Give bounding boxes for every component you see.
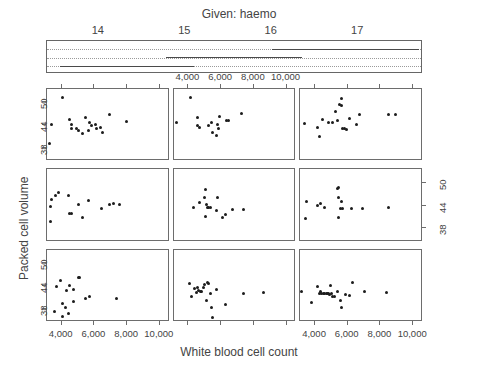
data-point — [204, 188, 207, 191]
given-tick-label: 14 — [92, 25, 104, 36]
data-point — [348, 117, 351, 120]
data-point — [175, 121, 178, 124]
data-point — [340, 104, 343, 107]
data-point — [242, 292, 245, 295]
y-tick-label: 38 — [438, 225, 448, 236]
x-tick-label: 10,000 — [271, 72, 300, 82]
data-point — [57, 191, 60, 194]
data-point — [70, 127, 73, 130]
data-point — [215, 209, 218, 212]
given-shingle-strip — [46, 40, 422, 73]
y-tick-label: 50 — [438, 179, 448, 190]
y-tick-label: 50 — [39, 259, 49, 270]
scatter-panel[interactable] — [173, 249, 296, 321]
data-point — [54, 194, 57, 197]
data-point — [50, 198, 53, 201]
data-point — [218, 115, 221, 118]
y-tick-label: 44 — [39, 282, 49, 293]
data-point — [118, 203, 121, 206]
data-point — [336, 290, 339, 293]
data-point — [50, 123, 53, 126]
data-point — [61, 302, 64, 305]
y-tick-label: 44 — [438, 202, 448, 213]
data-point — [310, 301, 313, 304]
data-point — [84, 116, 87, 119]
data-point — [331, 121, 334, 124]
x-tick-mark — [253, 321, 254, 325]
data-point — [207, 282, 210, 285]
data-point — [215, 288, 218, 291]
y-tick-label: 50 — [39, 99, 49, 110]
x-tick-mark — [61, 321, 62, 325]
scatter-panel[interactable] — [46, 249, 169, 321]
data-point — [216, 123, 219, 126]
data-point — [196, 116, 199, 119]
scatter-panel[interactable] — [46, 88, 169, 160]
data-point — [217, 127, 220, 130]
x-tick-label: 8,000 — [114, 329, 138, 339]
data-point — [70, 212, 73, 215]
data-point — [227, 119, 230, 122]
data-point — [333, 295, 336, 298]
data-point — [84, 297, 87, 300]
data-point — [81, 216, 84, 219]
x-tick-mark — [286, 321, 287, 325]
data-point — [305, 200, 308, 203]
data-point — [339, 299, 342, 302]
scatter-panel[interactable] — [299, 88, 422, 160]
data-point — [202, 286, 205, 289]
data-point — [87, 199, 90, 202]
given-interval-bar[interactable] — [224, 57, 302, 58]
data-point — [224, 213, 227, 216]
scatter-panel[interactable] — [46, 168, 169, 240]
data-point — [198, 201, 201, 204]
coplot-figure: Given: haemo 14151617 4,0006,0008,00010,… — [0, 0, 479, 365]
data-point — [363, 290, 366, 293]
data-point — [350, 207, 353, 210]
data-point — [87, 129, 90, 132]
x-tick-mark — [159, 321, 160, 325]
data-point — [215, 134, 218, 137]
y-tick-mark — [422, 205, 426, 206]
given-interval-bar[interactable] — [152, 66, 193, 67]
data-point — [321, 118, 324, 121]
data-point — [125, 120, 128, 123]
data-point — [101, 131, 104, 134]
data-point — [78, 276, 81, 279]
data-point — [340, 306, 343, 309]
scatter-panel[interactable] — [299, 168, 422, 240]
data-point — [67, 194, 70, 197]
y-tick-label: 38 — [39, 305, 49, 316]
data-point — [200, 290, 203, 293]
scatter-panel[interactable] — [173, 88, 296, 160]
scatter-panel[interactable] — [173, 168, 296, 240]
data-point — [100, 207, 103, 210]
data-point — [77, 203, 80, 206]
given-interval-bar[interactable] — [296, 49, 419, 50]
data-point — [203, 283, 206, 286]
scatter-panel[interactable] — [299, 249, 422, 321]
data-point — [190, 295, 193, 298]
x-tick-label: 10,000 — [398, 329, 427, 339]
data-point — [355, 123, 358, 126]
x-tick-label: 6,000 — [208, 72, 232, 82]
data-point — [316, 126, 319, 129]
data-point — [242, 208, 245, 211]
given-title: Given: haemo — [202, 8, 277, 20]
data-point — [81, 132, 84, 135]
data-point — [108, 203, 111, 206]
data-point — [209, 206, 212, 209]
data-point — [340, 97, 343, 100]
data-point — [216, 196, 219, 199]
data-point — [344, 293, 347, 296]
x-tick-label: 4,000 — [175, 72, 199, 82]
x-axis-title: White blood cell count — [180, 346, 297, 358]
data-point — [90, 124, 93, 127]
data-point — [204, 215, 207, 218]
y-tick-label: 38 — [39, 144, 49, 155]
data-point — [189, 96, 192, 99]
data-point — [115, 297, 118, 300]
data-point — [77, 129, 80, 132]
data-point — [210, 306, 213, 309]
data-point — [59, 279, 62, 282]
